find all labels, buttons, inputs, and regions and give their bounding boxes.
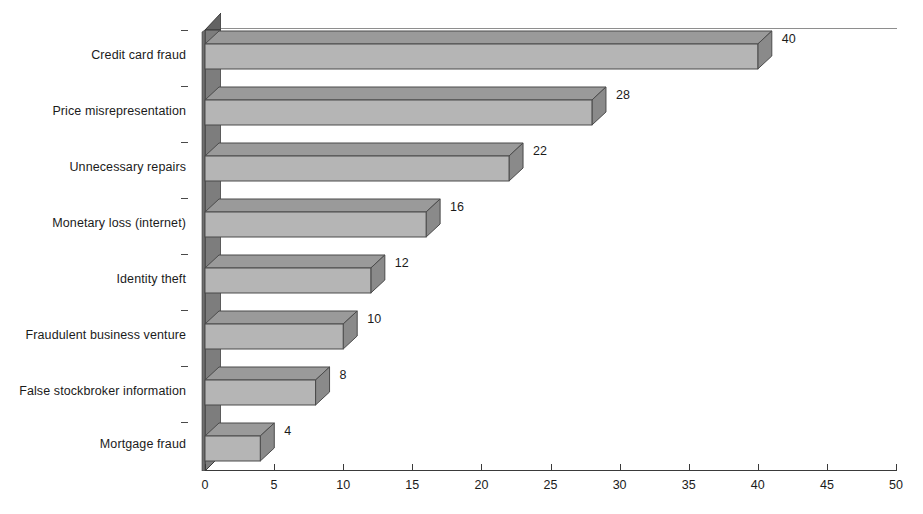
x-tick-40 — [758, 464, 759, 471]
x-tick-label-5: 5 — [271, 478, 278, 492]
y-tick-7 — [181, 422, 188, 423]
x-tick-15 — [412, 464, 413, 471]
x-tick-label-20: 20 — [474, 478, 488, 492]
x-tick-label-35: 35 — [682, 478, 696, 492]
bar-2[interactable] — [205, 143, 525, 181]
y-tick-5 — [181, 310, 188, 311]
category-label-0: Credit card fraud — [91, 48, 186, 62]
bar-0[interactable] — [205, 31, 774, 69]
x-tick-20 — [481, 464, 482, 471]
category-label-4: Identity theft — [117, 272, 187, 286]
y-tick-6 — [181, 366, 188, 367]
y-tick-4 — [181, 254, 188, 255]
value-label-7: 4 — [284, 424, 291, 438]
x-tick-label-15: 15 — [405, 478, 419, 492]
category-label-1: Price misrepresentation — [52, 104, 186, 118]
x-tick-label-40: 40 — [751, 478, 765, 492]
x-tick-label-0: 0 — [202, 478, 209, 492]
value-label-4: 12 — [395, 256, 409, 270]
y-tick-0 — [181, 30, 188, 31]
x-tick-label-25: 25 — [544, 478, 558, 492]
x-tick-35 — [689, 464, 690, 471]
value-label-1: 28 — [616, 88, 630, 102]
category-label-7: Mortgage fraud — [100, 437, 186, 451]
y-tick-1 — [181, 86, 188, 87]
value-label-0: 40 — [782, 32, 796, 46]
x-tick-5 — [274, 464, 275, 471]
x-tick-label-50: 50 — [889, 478, 903, 492]
x-tick-25 — [551, 464, 552, 471]
bar-6[interactable] — [205, 367, 332, 405]
category-label-3: Monetary loss (internet) — [52, 216, 186, 230]
x-tick-0 — [205, 464, 206, 471]
y-tick-2 — [181, 142, 188, 143]
chart-canvas: Credit card fraud Price misrepresentatio… — [0, 0, 923, 514]
bar-3[interactable] — [205, 199, 442, 237]
category-label-6: False stockbroker information — [19, 384, 186, 398]
bar-5[interactable] — [205, 311, 359, 349]
x-tick-label-30: 30 — [613, 478, 627, 492]
bar-4[interactable] — [205, 255, 387, 293]
value-label-6: 8 — [340, 368, 347, 382]
y-tick-3 — [181, 198, 188, 199]
bar-1[interactable] — [205, 87, 608, 125]
x-tick-label-10: 10 — [336, 478, 350, 492]
x-tick-50 — [896, 464, 897, 471]
bar-7[interactable] — [205, 423, 276, 461]
x-tick-10 — [343, 464, 344, 471]
category-label-5: Fraudulent business venture — [26, 328, 186, 342]
x-tick-30 — [620, 464, 621, 471]
back-wall-top-edge — [221, 28, 897, 29]
category-label-2: Unnecessary repairs — [69, 160, 186, 174]
value-label-2: 22 — [533, 144, 547, 158]
value-label-3: 16 — [450, 200, 464, 214]
x-tick-label-45: 45 — [820, 478, 834, 492]
x-tick-45 — [827, 464, 828, 471]
value-label-5: 10 — [367, 312, 381, 326]
